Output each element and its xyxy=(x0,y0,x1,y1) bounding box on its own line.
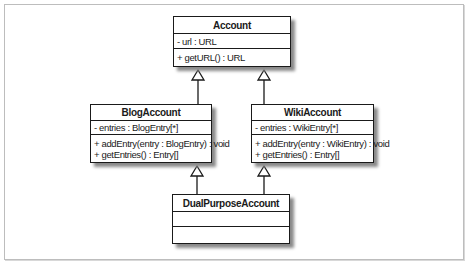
class-account[interactable]: Account - url : URL + getURL() : URL xyxy=(173,16,291,67)
generalization-arrow-wiki-account xyxy=(258,70,270,80)
class-name: Account xyxy=(174,17,290,34)
attribute: - url : URL xyxy=(177,36,290,47)
attributes-compartment xyxy=(173,212,289,227)
attribute: - entries : BlogEntry[*] xyxy=(94,122,211,133)
operation: + getURL() : URL xyxy=(177,52,290,63)
operation: + addEntry(entry : WikiEntry) : void xyxy=(255,138,373,149)
operations-compartment: + addEntry(entry : BlogEntry) : void + g… xyxy=(91,135,211,162)
class-blog-account[interactable]: BlogAccount - entries : BlogEntry[*] + a… xyxy=(90,104,212,163)
attributes-compartment: - url : URL xyxy=(174,34,290,49)
operations-compartment xyxy=(173,227,289,243)
class-wiki-account[interactable]: WikiAccount - entries : WikiEntry[*] + a… xyxy=(251,104,374,163)
class-name: WikiAccount xyxy=(252,105,373,121)
operations-compartment: + addEntry(entry : WikiEntry) : void + g… xyxy=(252,135,373,162)
operation: + getEntries() : Entry[] xyxy=(94,149,211,160)
class-dual-purpose-account[interactable]: DualPurposeAccount xyxy=(172,194,290,244)
operation: + addEntry(entry : BlogEntry) : void xyxy=(94,138,211,149)
class-name: BlogAccount xyxy=(91,105,211,121)
attribute: - entries : WikiEntry[*] xyxy=(255,122,373,133)
attributes-compartment: - entries : BlogEntry[*] xyxy=(91,121,211,135)
generalization-arrow-dual-blog xyxy=(191,166,203,176)
generalization-arrow-blog-account xyxy=(192,70,204,80)
generalization-arrow-dual-wiki xyxy=(258,166,270,176)
class-name: DualPurposeAccount xyxy=(173,195,289,212)
attributes-compartment: - entries : WikiEntry[*] xyxy=(252,121,373,135)
operation: + getEntries() : Entry[] xyxy=(255,149,373,160)
operations-compartment: + getURL() : URL xyxy=(174,49,290,66)
